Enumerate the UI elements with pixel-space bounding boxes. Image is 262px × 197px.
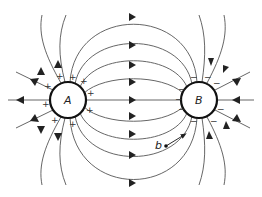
- svg-text:−: −: [204, 72, 212, 82]
- svg-text:+: +: [86, 105, 94, 115]
- svg-text:+: +: [42, 99, 50, 109]
- svg-text:+: +: [80, 76, 88, 86]
- charge-a: A + + + + + + + + +: [42, 71, 95, 129]
- svg-text:+: +: [44, 81, 52, 91]
- field-point-b: b: [155, 135, 184, 152]
- svg-text:−: −: [213, 78, 221, 88]
- svg-text:+: +: [51, 115, 59, 125]
- svg-text:−: −: [178, 84, 186, 94]
- charge-label-b: B: [195, 94, 203, 107]
- svg-text:−: −: [210, 116, 218, 126]
- svg-text:−: −: [178, 104, 186, 114]
- svg-text:−: −: [217, 104, 225, 114]
- point-label-b: b: [155, 139, 162, 152]
- svg-text:+: +: [87, 88, 95, 98]
- charge-label-a: A: [63, 94, 72, 107]
- svg-text:−: −: [190, 116, 198, 126]
- svg-text:−: −: [190, 72, 198, 82]
- svg-text:−: −: [175, 94, 183, 104]
- svg-text:+: +: [56, 71, 64, 81]
- svg-text:+: +: [69, 72, 77, 82]
- field-lines-diagram: b A + + + + + + + + + B − − − − − − − −: [0, 0, 262, 197]
- direction-arrows: [129, 13, 136, 187]
- svg-text:+: +: [69, 119, 77, 129]
